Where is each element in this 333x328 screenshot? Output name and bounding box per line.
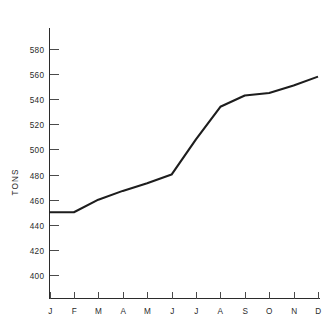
y-tick-label: 540 bbox=[30, 96, 45, 105]
line-chart-figure: 400420440460480500520540560580 JFMAMJJAS… bbox=[0, 0, 333, 328]
y-tick-label: 420 bbox=[30, 247, 45, 256]
y-tick-label: 400 bbox=[30, 272, 45, 281]
x-tick-label: O bbox=[266, 307, 273, 316]
x-tick-label: N bbox=[291, 307, 297, 316]
y-tick-label: 520 bbox=[30, 121, 45, 130]
y-tick-label: 460 bbox=[30, 197, 45, 206]
y-tick-label: 580 bbox=[30, 46, 45, 55]
x-tick-label: A bbox=[218, 307, 224, 316]
x-tick-label: M bbox=[95, 307, 102, 316]
x-tick-label: M bbox=[144, 307, 151, 316]
y-tick-label: 560 bbox=[30, 71, 45, 80]
y-tick-label: 440 bbox=[30, 222, 45, 231]
y-tick-label: 500 bbox=[30, 146, 45, 155]
x-tick-label: S bbox=[243, 307, 249, 316]
chart-canvas: 400420440460480500520540560580 JFMAMJJAS… bbox=[0, 0, 333, 328]
y-axis-title: TONS bbox=[11, 169, 20, 196]
y-tick-label: 480 bbox=[30, 172, 45, 181]
y-axis-title-text: TONS bbox=[11, 169, 20, 196]
x-tick-label: F bbox=[72, 307, 77, 316]
x-tick-label: J bbox=[194, 307, 199, 316]
x-tick-label: A bbox=[121, 307, 127, 316]
x-tick-label: J bbox=[48, 307, 53, 316]
x-tick-label: J bbox=[170, 307, 175, 316]
x-tick-label: D bbox=[315, 307, 321, 316]
